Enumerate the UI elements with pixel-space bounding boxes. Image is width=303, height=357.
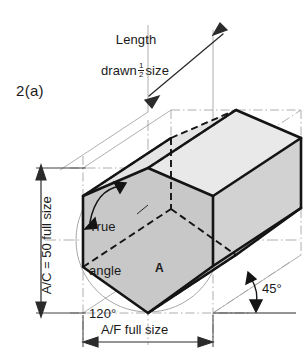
half-fraction: 12 xyxy=(138,62,145,79)
length-note-line1: Length xyxy=(116,32,156,47)
length-arrow-upper xyxy=(213,23,227,35)
figure-label: 2(a) xyxy=(16,83,44,100)
true-angle-value: 120° xyxy=(89,307,121,322)
angle-45-arrow-lower xyxy=(250,300,262,312)
angle-45-label: 45° xyxy=(262,282,282,297)
angle-45-indicator xyxy=(246,272,262,312)
fraction-denominator: 2 xyxy=(138,71,145,79)
across-flats-label: A/F full size xyxy=(101,323,168,338)
angle-45-arrow-upper xyxy=(246,272,256,284)
true-angle-line1: True xyxy=(89,220,121,235)
face-marker-label: A xyxy=(155,262,164,275)
drawing-page: 2(a) Length drawn12size True angle 120° … xyxy=(0,0,303,357)
ac-arrow-top xyxy=(36,165,46,180)
true-angle-line2: angle xyxy=(89,264,121,279)
across-corners-label: A/C = 50 full size xyxy=(40,180,55,310)
length-note-suffix: size xyxy=(145,63,169,78)
length-note: Length drawn12size xyxy=(101,18,169,109)
af-arrow-right xyxy=(198,337,213,347)
length-note-line2: drawn12size xyxy=(101,63,169,80)
length-note-prefix: drawn xyxy=(101,63,137,78)
